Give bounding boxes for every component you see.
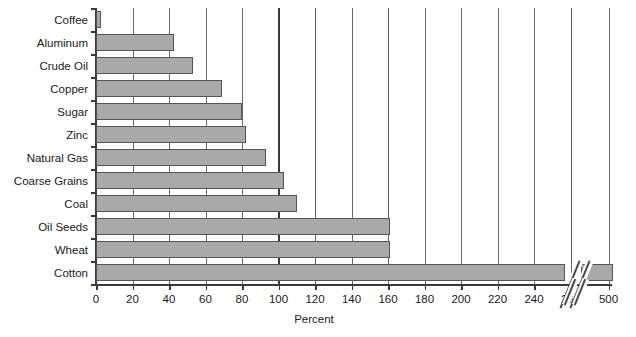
bar-chart: CoffeeAluminumCrude OilCopperSugarZincNa… [0,0,636,337]
x-tick-80 [242,284,244,290]
x-tick-60 [206,284,208,290]
x-tick-180 [425,284,427,290]
x-tick-label-120: 120 [295,293,335,306]
x-tick-label-20: 20 [113,293,153,306]
category-tick-7 [91,169,96,171]
category-label-coffee: Coffee [0,14,88,26]
bar-oil-seeds [96,218,390,235]
x-tick-label-40: 40 [149,293,189,306]
category-label-coal: Coal [0,198,88,210]
x-tick-160 [388,284,390,290]
category-tick-8 [91,192,96,194]
x-tick-label-80: 80 [222,293,262,306]
x-tick-220 [498,284,500,290]
category-label-wheat: Wheat [0,244,88,256]
category-tick-9 [91,215,96,217]
x-tick-label-60: 60 [186,293,226,306]
gridline-180 [425,8,426,284]
x-axis-title-text: Percent [294,313,334,325]
bar-copper [96,80,222,97]
bar-crude-oil [96,57,193,74]
bar-natural-gas [96,149,266,166]
category-tick-2 [91,54,96,56]
x-tick-label-500: 500 [589,293,629,306]
x-tick-100 [279,284,281,290]
gridline-500 [609,8,610,284]
category-label-natural-gas: Natural Gas [0,152,88,164]
x-tick-label-160: 160 [368,293,408,306]
bar-cotton [96,264,565,281]
x-tick-200 [461,284,463,290]
x-tick-500 [609,284,611,290]
x-tick-label-140: 140 [332,293,372,306]
bar-wheat [96,241,390,258]
category-axis: CoffeeAluminumCrude OilCopperSugarZincNa… [0,8,92,284]
x-axis-title: Percent [0,313,636,325]
category-tick-11 [91,261,96,263]
category-tick-10 [91,238,96,240]
bar-coffee [96,11,101,28]
x-tick-40 [169,284,171,290]
category-tick-1 [91,31,96,33]
x-tick-label-240: 240 [514,293,554,306]
plot-area [96,8,609,284]
bar-coal [96,195,297,212]
x-tick-240 [534,284,536,290]
category-label-coarse-grains: Coarse Grains [0,175,88,187]
gridline-220 [498,8,499,284]
x-tick-label-100: 100 [259,293,299,306]
category-tick-5 [91,123,96,125]
gridline-200 [461,8,462,284]
bar-aluminum [96,34,174,51]
x-tick-label-0: 0 [76,293,116,306]
x-tick-120 [315,284,317,290]
bar-sugar [96,103,242,120]
category-tick-3 [91,77,96,79]
value-axis: 020406080100120140160180200220240260500 [96,284,609,285]
bar-zinc [96,126,246,143]
category-label-copper: Copper [0,83,88,95]
category-tick-4 [91,100,96,102]
gridline-240 [534,8,535,284]
category-label-zinc: Zinc [0,129,88,141]
category-label-oil-seeds: Oil Seeds [0,221,88,233]
category-label-cotton: Cotton [0,267,88,279]
x-tick-0 [96,284,98,290]
bar-coarse-grains [96,172,284,189]
category-label-sugar: Sugar [0,106,88,118]
x-tick-20 [133,284,135,290]
category-label-aluminum: Aluminum [0,37,88,49]
category-tick-0 [91,8,96,10]
x-tick-label-220: 220 [478,293,518,306]
x-tick-label-200: 200 [441,293,481,306]
x-tick-label-180: 180 [405,293,445,306]
x-tick-140 [352,284,354,290]
category-label-crude-oil: Crude Oil [0,60,88,72]
gridline-260 [571,8,572,284]
category-tick-6 [91,146,96,148]
